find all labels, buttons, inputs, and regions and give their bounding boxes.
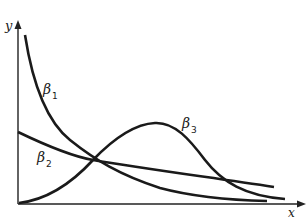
svg-text:β: β — [181, 115, 190, 131]
svg-text:1: 1 — [52, 91, 58, 101]
curve-beta3 — [19, 123, 285, 203]
label-beta3: β 3 — [181, 115, 197, 135]
svg-text:β: β — [36, 149, 45, 165]
x-axis-arrow-icon — [297, 201, 306, 208]
diagram: y x β 1 β 2 β 3 — [0, 0, 307, 223]
svg-text:2: 2 — [46, 159, 52, 169]
curve-beta2 — [18, 132, 274, 187]
svg-text:β: β — [42, 81, 51, 97]
curve-beta1 — [25, 35, 267, 201]
label-beta1: β 1 — [42, 81, 58, 101]
label-beta2: β 2 — [36, 149, 52, 169]
x-axis-label: x — [288, 206, 295, 220]
svg-text:3: 3 — [191, 125, 197, 135]
y-axis-arrow-icon — [15, 20, 22, 29]
y-axis-label: y — [4, 18, 13, 33]
